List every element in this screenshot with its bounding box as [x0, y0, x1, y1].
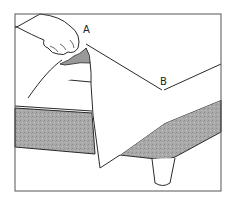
illustration-canvas [0, 0, 233, 203]
bed-sheet-illustration: A B [0, 0, 233, 203]
hand [15, 14, 79, 55]
bed-leg [152, 158, 175, 186]
mattress-left-side [15, 108, 95, 154]
label-b: B [160, 77, 167, 87]
label-a: A [83, 25, 90, 35]
